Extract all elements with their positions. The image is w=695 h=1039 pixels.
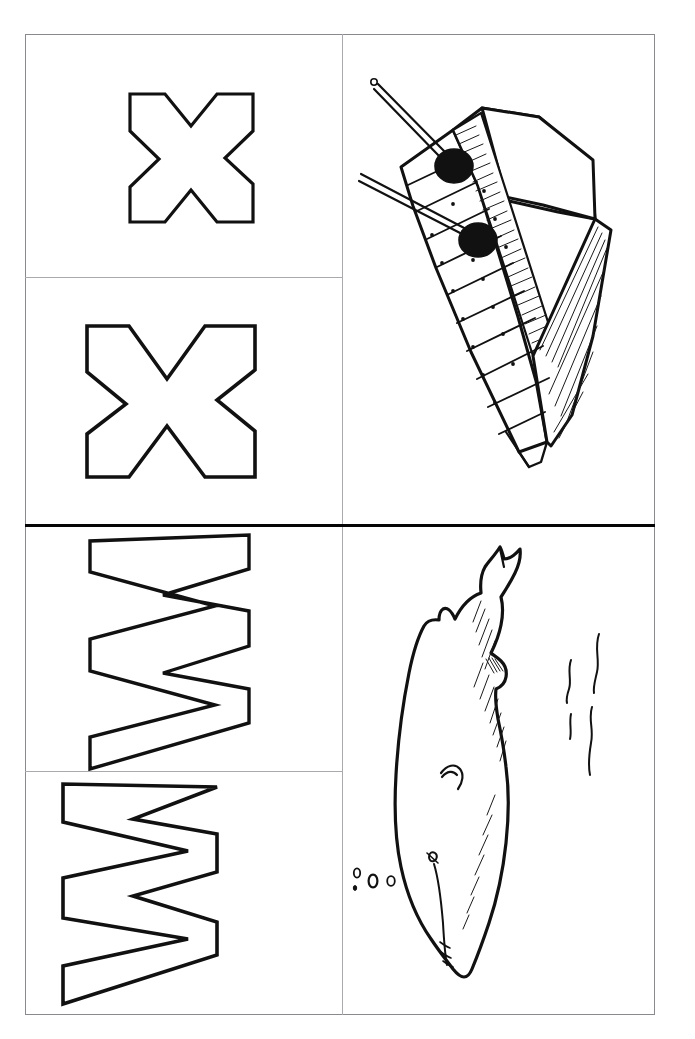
- bubbles: [353, 868, 395, 890]
- worksheet-page: [0, 0, 695, 1039]
- xylophone-icon: [343, 34, 655, 524]
- cell-letter-w-bottom: [25, 772, 342, 1015]
- water-ripples: [567, 634, 599, 775]
- cell-picture-whale: [343, 527, 655, 1015]
- letter-w-icon: [25, 527, 342, 771]
- cell-letter-x-bottom: [25, 278, 342, 524]
- letter-x-icon: [25, 278, 342, 524]
- cell-picture-xylophone: [343, 34, 655, 524]
- cell-letter-w-top: [25, 527, 342, 771]
- whale-icon: [343, 527, 655, 1015]
- letter-w-icon: [25, 772, 342, 1015]
- cell-letter-x-top: [25, 34, 342, 277]
- letter-x-icon: [25, 34, 342, 277]
